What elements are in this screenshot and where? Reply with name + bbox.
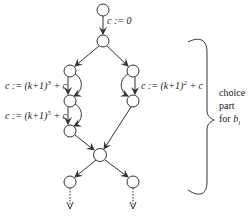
edge-left-upper-curve [74, 74, 81, 96]
node-right-1 [127, 65, 139, 77]
node-out-right [127, 176, 139, 188]
label-init: c := 0 [107, 15, 132, 26]
label-left-upper-base: c := (k+1) [5, 80, 47, 91]
brace-label-sub: i [238, 119, 240, 127]
node-right-2 [127, 95, 139, 107]
brace-label: choice part for bi [219, 86, 245, 130]
node-split [97, 35, 109, 47]
brace-label-prefix: for [219, 113, 233, 124]
node-out-left [64, 176, 76, 188]
label-right-tail: + c [187, 80, 203, 91]
node-left-1 [64, 65, 76, 77]
label-left-lower: c := (k+1)5 + c [5, 109, 67, 121]
edge-split-left [75, 46, 99, 66]
label-right: c := (k+1)2 + c [141, 79, 203, 91]
edge-split-right [107, 46, 128, 66]
label-left-lower-tail: + c [51, 110, 67, 121]
brace-label-line2: part [219, 99, 245, 112]
label-right-base: c := (k+1) [141, 80, 183, 91]
edge-merge-right [105, 160, 128, 177]
edge-left-merge [75, 135, 94, 150]
edge-left-lower-curve [74, 104, 81, 126]
label-left-upper-tail: + c [51, 80, 67, 91]
brace-label-line3: for bi [219, 112, 245, 130]
node-left-3 [64, 125, 76, 137]
brace-label-line1: choice [219, 86, 245, 99]
node-left-2 [64, 95, 76, 107]
edge-right-curve [121, 74, 128, 96]
edge-right-merge [104, 107, 131, 149]
label-left-upper: c := (k+1)3 + c [5, 79, 67, 91]
node-merge [94, 149, 107, 162]
choice-brace [188, 39, 214, 194]
label-left-lower-base: c := (k+1) [5, 110, 47, 121]
edge-merge-left [75, 160, 96, 177]
